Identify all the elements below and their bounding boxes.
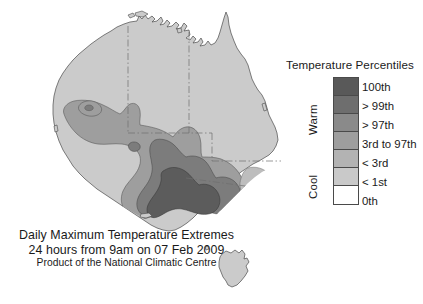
legend-swatch-below-3rd xyxy=(334,150,358,168)
figure-root: Daily Maximum Temperature Extremes 24 ho… xyxy=(0,0,423,304)
legend-label-below-3rd: < 3rd xyxy=(362,158,388,169)
legend: Temperature Percentiles Warm Cool 100th … xyxy=(286,58,423,214)
map-svg xyxy=(0,0,300,304)
legend-label-0th: 0th xyxy=(362,196,378,207)
legend-swatch-0th xyxy=(334,186,358,204)
legend-swatch-100th xyxy=(334,78,358,96)
legend-axis-label-cool: Cool xyxy=(307,175,319,199)
island-groote xyxy=(177,28,182,33)
legend-colorbar xyxy=(333,77,359,205)
legend-label-above-97th: > 97th xyxy=(362,120,394,131)
australia-map xyxy=(0,0,300,304)
legend-label-3rd-to-97th: 3rd to 97th xyxy=(362,139,416,150)
island-dirk-hartog xyxy=(54,125,58,132)
tasmania-islet-north xyxy=(205,246,209,250)
legend-swatch-above-97th xyxy=(334,114,358,132)
contour-100th-sa-pocket xyxy=(128,142,140,151)
legend-title: Temperature Percentiles xyxy=(286,58,414,71)
legend-axis-label-warm: Warm xyxy=(307,104,319,135)
legend-swatch-3rd-to-97th xyxy=(334,132,358,150)
legend-swatch-below-1st xyxy=(334,168,358,186)
legend-label-100th: 100th xyxy=(362,82,391,93)
legend-label-above-99th: > 99th xyxy=(362,101,394,112)
legend-label-below-1st: < 1st xyxy=(362,177,387,188)
legend-swatch-above-99th xyxy=(334,96,358,114)
contour-wa-inner-pocket xyxy=(85,105,94,111)
